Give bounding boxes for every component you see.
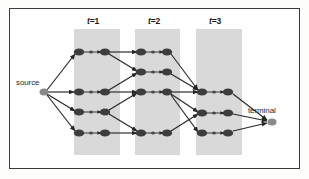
node-t1-a-out [100,48,110,55]
node-t2-b-in [136,68,146,75]
diagram-canvas [0,0,309,179]
node-t2-b-out [162,68,172,75]
node-t1-c-out [100,108,110,115]
node-t3-a-mid [212,90,216,93]
node-t2-a-mid [151,50,155,53]
node-t3-b-mid [212,111,216,114]
node-t1-d-out [100,129,110,136]
node-t1-c-in [74,108,84,115]
node-t3-a-in [197,88,207,95]
node-t2-d-mid [151,131,155,134]
stage-label-t2-eq: =2 [151,16,160,26]
stage-label-t2: t=2 [148,16,160,26]
node-t2-c-out [162,88,172,95]
stage-label-t1-eq: =1 [90,16,99,26]
e-src-t1a [47,54,75,90]
terminal-node-label: terminal [248,106,276,115]
node-t1-a-in [74,48,84,55]
source-node-label: source [16,78,39,87]
node-t2-a-in [136,48,146,55]
node-t2-d-out [162,129,172,136]
node-t3-c-out [223,129,233,136]
node-t2-c-mid [151,90,155,93]
node-t1-c-mid [89,110,93,113]
stage-label-t1: t=1 [87,16,99,26]
stage-label-t3: t=3 [209,16,221,26]
node-t3-b-in [197,109,207,116]
node-t3-c-in [197,129,207,136]
source-node [40,88,49,95]
node-t3-c-mid [212,131,216,134]
trellis-diagram-figure: t=1 t=2 t=3 source terminal [0,0,309,179]
node-t2-c-in [136,88,146,95]
node-t1-b-out [100,88,110,95]
node-t2-d-in [136,129,146,136]
node-t1-b-in [74,88,84,95]
e-src-t1d [47,95,75,131]
node-t3-a-out [223,88,233,95]
node-t1-a-mid [89,50,93,53]
node-t3-b-out [223,109,233,116]
terminal-node [268,118,277,125]
node-t2-a-out [162,48,172,55]
e-src-t1c [47,94,75,111]
node-t1-d-in [74,129,84,136]
node-t2-b-mid [151,70,155,73]
node-t1-d-mid [89,131,93,134]
node-t1-b-mid [89,90,93,93]
stage-label-t3-eq: =3 [212,16,221,26]
